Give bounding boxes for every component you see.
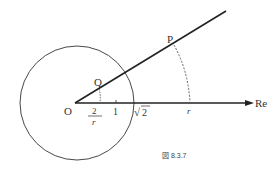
complex-plane-diagram: O P Q Re 2 r 1 √ 2 r 図 8.3.7: [0, 0, 279, 180]
fraction-denominator: r: [92, 117, 96, 127]
arc-p-to-r: [174, 45, 190, 102]
ray-op: [75, 11, 226, 103]
label-axis: Re: [255, 97, 267, 109]
fraction-numerator: 2: [92, 106, 97, 116]
axis-arrowhead-icon: [245, 100, 254, 106]
arc-q-to-2r: [99, 89, 100, 102]
label-r: r: [187, 106, 191, 116]
label-one: 1: [113, 106, 118, 117]
label-q: Q: [94, 76, 102, 88]
figure-caption: 図 8.3.7: [162, 152, 187, 160]
sqrt-symbol: √: [134, 106, 141, 118]
sqrt-value: 2: [142, 107, 147, 118]
label-origin: O: [64, 105, 72, 117]
label-p: P: [167, 33, 173, 45]
